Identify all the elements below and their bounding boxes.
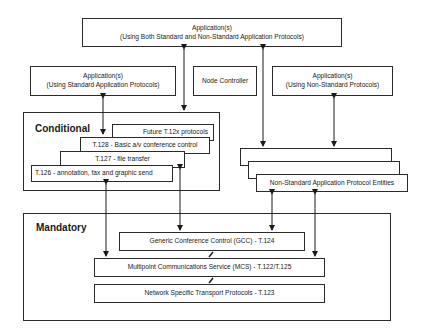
- node-controller-box: Node Controller: [193, 66, 257, 96]
- mcs-label: Multipoint Communications Service (MCS) …: [128, 263, 292, 272]
- app-standard-subtitle: (Using Standard Application Protocols): [47, 81, 160, 90]
- network-transport-label: Network Specific Transport Protocols - T…: [145, 289, 275, 298]
- gcc-box: Generic Conference Control (GCC) - T.124: [119, 232, 305, 251]
- app-nonstandard-title: Application(s): [313, 72, 353, 81]
- node-controller-label: Node Controller: [202, 77, 248, 86]
- app-standard-title: Application(s): [83, 72, 123, 81]
- app-standard-box: Application(s) (Using Standard Applicati…: [30, 66, 176, 96]
- future-t12x-label: Future T.12x protocols: [143, 128, 208, 137]
- app-both-title: Application(s): [192, 24, 232, 33]
- network-transport-box: Network Specific Transport Protocols - T…: [94, 284, 325, 303]
- t126-label: T.126 - annotation, fax and graphic send: [35, 169, 153, 178]
- gcc-label: Generic Conference Control (GCC) - T.124: [150, 237, 275, 246]
- app-both-protocols-box: Application(s) (Using Both Standard and …: [82, 18, 342, 47]
- t126-box: T.126 - annotation, fax and graphic send: [31, 165, 173, 182]
- mcs-box: Multipoint Communications Service (MCS) …: [94, 258, 325, 277]
- nonstd-entities-label: Non-Standard Application Protocol Entiti…: [270, 179, 394, 188]
- t127-label: T.127 - file transfer: [95, 155, 150, 164]
- app-nonstandard-subtitle: (Using Non-Standard Protocols): [286, 81, 379, 90]
- app-nonstandard-box: Application(s) (Using Non-Standard Proto…: [272, 66, 393, 96]
- mandatory-title: Mandatory: [36, 222, 87, 233]
- nonstd-entities-front: Non-Standard Application Protocol Entiti…: [256, 174, 408, 192]
- t128-label: T.128 - Basic a/v conference control: [93, 141, 198, 150]
- app-both-subtitle: (Using Both Standard and Non-Standard Ap…: [120, 33, 304, 42]
- conditional-title: Conditional: [35, 123, 90, 134]
